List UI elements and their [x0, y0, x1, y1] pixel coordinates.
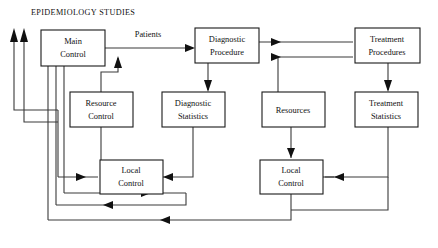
edge-treatment-statistics-to-local [325, 127, 388, 177]
node-diagnostic-procedure-label-2: Procedure [210, 48, 244, 57]
arrowhead-treatment-to-statistics [384, 80, 392, 92]
node-resource-control[interactable]: Resource Control [70, 92, 133, 127]
node-resources-label-1: Resources [276, 106, 310, 115]
node-local-control-left[interactable]: Local Control [100, 160, 163, 194]
node-treatment-procedures-label-1: Treatment [370, 35, 405, 44]
node-local-control-right[interactable]: Local Control [260, 160, 323, 194]
node-diagnostic-statistics-label-1: Diagnostic [175, 99, 212, 108]
arrowhead-resource-control-to-main [114, 56, 122, 68]
node-local-control-right-label-1: Local [281, 166, 301, 175]
node-diagnostic-statistics-rect[interactable] [162, 92, 225, 127]
edge-resources-to-treatment [278, 57, 353, 92]
node-diagnostic-procedure-label-1: Diagnostic [209, 35, 246, 44]
node-local-control-left-label-2: Control [118, 179, 144, 188]
arrowhead-longest-bottom-bus [160, 216, 170, 224]
arrowhead-resources-to-treatment [271, 53, 281, 61]
node-treatment-statistics-label-1: Treatment [369, 99, 404, 108]
node-diagnostic-procedure[interactable]: Diagnostic Procedure [195, 28, 259, 63]
epidemiology-studies-diagram: EPIDEMIOLOGY STUDIES [0, 0, 438, 248]
node-main-control-label-1: Main [64, 37, 82, 46]
node-treatment-procedures-rect[interactable] [355, 28, 420, 63]
node-resource-control-label-2: Control [88, 112, 114, 121]
arrowhead-feedback-riser-2 [20, 28, 28, 42]
node-resources[interactable]: Resources [262, 92, 325, 127]
node-treatment-procedures-label-2: Procedures [368, 48, 405, 57]
node-local-control-right-label-2: Control [278, 179, 304, 188]
edge-longest-bottom-bus [48, 194, 291, 220]
node-main-control-label-2: Control [60, 50, 86, 59]
node-diagnostic-procedure-rect[interactable] [195, 28, 259, 63]
diagram-canvas: EPIDEMIOLOGY STUDIES [0, 0, 438, 248]
arrowhead-bus-into-local-left [76, 173, 86, 181]
node-treatment-statistics[interactable]: Treatment Statistics [355, 92, 418, 127]
arrowhead-diagnostic-to-treatment [271, 38, 281, 46]
arrowhead-treatment-statistics-to-local [334, 173, 344, 181]
diagram-title: EPIDEMIOLOGY STUDIES [31, 8, 135, 17]
arrowhead-resources-to-local [287, 148, 295, 158]
arrowhead-bus-return-left [103, 201, 113, 209]
edge-label-patients: Patients [135, 30, 162, 39]
node-treatment-procedures[interactable]: Treatment Procedures [355, 28, 420, 63]
node-main-control[interactable]: Main Control [41, 30, 105, 66]
edge-diagnostic-statistics-to-local [165, 127, 193, 177]
arrowhead-diagnostic-to-statistics [204, 80, 212, 92]
arrowhead-main-to-diagnostic [185, 44, 195, 52]
node-layer: Main Control Diagnostic Procedure Treatm… [41, 28, 420, 194]
node-treatment-statistics-label-2: Statistics [371, 112, 401, 121]
node-diagnostic-statistics-label-2: Statistics [178, 112, 208, 121]
arrowhead-feedback-riser-1 [10, 28, 18, 42]
node-treatment-statistics-rect[interactable] [355, 92, 418, 127]
node-diagnostic-statistics[interactable]: Diagnostic Statistics [162, 92, 225, 127]
node-local-control-left-label-1: Local [121, 166, 141, 175]
node-resource-control-label-1: Resource [85, 99, 116, 108]
node-resource-control-rect[interactable] [70, 92, 133, 127]
node-main-control-rect[interactable] [41, 30, 105, 66]
edge-bus-return-left [56, 193, 186, 205]
